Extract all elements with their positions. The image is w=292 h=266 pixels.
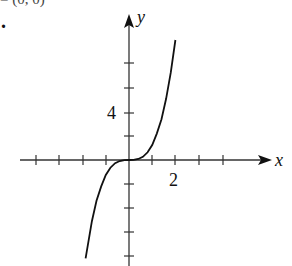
y-tick-label-4: 4 xyxy=(107,103,116,123)
graph: x y 2 4 xyxy=(0,0,292,266)
y-axis-label: y xyxy=(135,7,145,27)
figure: = (0, 0) . xyxy=(0,0,292,266)
x-axis-label: x xyxy=(274,150,283,170)
cubic-curve xyxy=(86,40,176,258)
x-tick-label-2: 2 xyxy=(169,170,178,190)
